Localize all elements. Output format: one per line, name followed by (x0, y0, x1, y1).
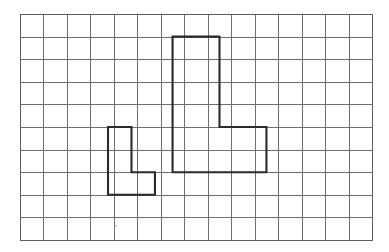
paper-speck (115, 225, 117, 227)
figure-canvas (0, 0, 389, 252)
grid-figure (0, 0, 389, 252)
grid-lines-group (21, 15, 373, 241)
shapes-group (108, 37, 266, 195)
paper-speck (115, 225, 117, 227)
small-l-shape (108, 127, 155, 195)
